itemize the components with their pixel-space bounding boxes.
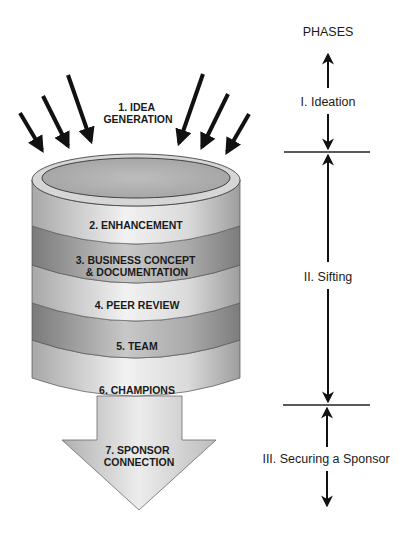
- phases-header: PHASES: [303, 25, 354, 39]
- phase-sifting-label: II. Sifting: [304, 270, 353, 284]
- stage-label-enhancement: 2. ENHANCEMENT: [89, 219, 183, 231]
- stage-label-team: 5. TEAM: [116, 340, 158, 352]
- phase-securing-sponsor-label: III. Securing a Sponsor: [262, 452, 389, 466]
- arrow-icon: [202, 94, 228, 147]
- arrow-icon: [179, 74, 203, 143]
- idea-funnel-diagram: 1. IDEA GENERATION 7. SPONSOR CONNECTION…: [0, 0, 413, 539]
- phase-ideation-label: I. Ideation: [301, 95, 356, 109]
- phases-column: PHASES I. Ideation II. Sifting III. Secu…: [262, 25, 389, 505]
- arrow-icon: [68, 75, 91, 141]
- sponsor-connection-label: 7. SPONSOR CONNECTION: [104, 444, 175, 468]
- idea-generation-label: 1. IDEA GENERATION: [103, 101, 172, 125]
- stage-label-peer-review: 4. PEER REVIEW: [95, 299, 180, 311]
- arrow-icon: [20, 113, 42, 150]
- stage-label-champions: 6. CHAMPIONS: [99, 384, 175, 396]
- arrow-icon: [227, 114, 249, 152]
- arrow-icon: [43, 96, 68, 146]
- stage-label-business-concept: 3. BUSINESS CONCEPT & DOCUMENTATION: [76, 254, 199, 278]
- cylinder-opening: [42, 158, 230, 198]
